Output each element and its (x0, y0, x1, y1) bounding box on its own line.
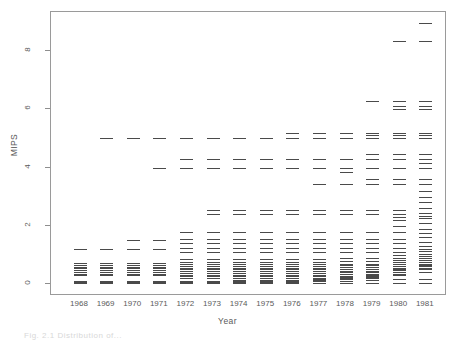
data-point-dash (393, 274, 406, 275)
data-point-dash (313, 283, 326, 284)
data-point-dash (419, 260, 432, 261)
data-point-dash (100, 249, 113, 250)
data-point-dash (207, 266, 220, 267)
data-point-dash (100, 268, 113, 269)
data-point-dash (313, 266, 326, 267)
data-point-dash (393, 159, 406, 160)
y-tick-label: 8 (23, 40, 32, 60)
data-point-dash (366, 243, 379, 244)
data-point-dash (419, 179, 432, 180)
data-point-dash (180, 266, 193, 267)
data-point-dash (100, 281, 113, 282)
data-point-dash (313, 184, 326, 185)
data-point-dash (393, 243, 406, 244)
data-point-dash (313, 214, 326, 215)
data-point-dash (393, 184, 406, 185)
data-point-dash (340, 138, 353, 139)
data-point-dash (127, 267, 140, 268)
data-point-dash (180, 252, 193, 253)
data-point-dash (260, 264, 273, 265)
data-point-dash (419, 283, 432, 284)
data-point-dash (260, 273, 273, 274)
data-point-dash (286, 168, 299, 169)
data-point-dash (286, 133, 299, 134)
y-axis-label: MIPS (9, 115, 19, 175)
data-point-dash (180, 275, 193, 276)
data-point-dash (127, 249, 140, 250)
data-point-dash (153, 240, 166, 241)
data-point-dash (366, 154, 379, 155)
data-point-dash (366, 239, 379, 240)
data-point-dash (180, 273, 193, 274)
data-point-dash (260, 138, 273, 139)
data-point-dash (180, 264, 193, 265)
y-tick-label: 4 (23, 156, 32, 176)
data-point-dash (286, 269, 299, 270)
data-point-dash (393, 135, 406, 136)
data-point-dash (127, 272, 140, 273)
data-point-dash (233, 273, 246, 274)
data-point-dash (207, 214, 220, 215)
data-point-dash (286, 264, 299, 265)
data-point-dash (180, 168, 193, 169)
data-point-dash (393, 210, 406, 211)
data-point-dash (286, 268, 299, 269)
data-point-dash (233, 262, 246, 263)
data-point-dash (260, 159, 273, 160)
data-point-dash (419, 208, 432, 209)
data-point-dash (153, 265, 166, 266)
data-point-dash (207, 268, 220, 269)
data-point-dash (393, 262, 406, 263)
data-point-dash (207, 168, 220, 169)
data-point-dash (180, 269, 193, 270)
data-point-dash (286, 252, 299, 253)
data-point-dash (233, 210, 246, 211)
data-point-dash (313, 239, 326, 240)
data-point-dash (393, 270, 406, 271)
data-point-dash (207, 276, 220, 277)
data-point-dash (180, 262, 193, 263)
data-point-dash (393, 232, 406, 233)
data-point-dash (313, 232, 326, 233)
data-point-dash (233, 280, 246, 281)
data-point-dash (180, 278, 193, 279)
data-point-dash (419, 256, 432, 257)
data-point-dash (180, 268, 193, 269)
data-point-dash (207, 281, 220, 282)
data-point-dash (74, 263, 87, 264)
data-point-dash (393, 138, 406, 139)
data-point-dash (393, 260, 406, 261)
data-point-dash (180, 232, 193, 233)
data-point-dash (340, 252, 353, 253)
data-point-dash (127, 274, 140, 275)
data-point-dash (207, 278, 220, 279)
data-point-dash (260, 243, 273, 244)
data-point-dash (313, 264, 326, 265)
data-point-dash (393, 101, 406, 102)
data-point-dash (419, 229, 432, 230)
data-point-dash (340, 269, 353, 270)
data-point-dash (340, 264, 353, 265)
data-point-dash (419, 265, 432, 266)
data-point-dash (340, 283, 353, 284)
figure-caption: Fig. 2.1 Distribution of... (24, 331, 122, 340)
plot-area (50, 11, 446, 295)
data-point-dash (100, 267, 113, 268)
data-point-dash (366, 214, 379, 215)
data-point-dash (366, 274, 379, 275)
data-point-dash (340, 267, 353, 268)
data-point-dash (233, 214, 246, 215)
data-point-dash (313, 133, 326, 134)
data-point-dash (393, 272, 406, 273)
data-point-dash (419, 184, 432, 185)
data-point-dash (100, 274, 113, 275)
data-point-dash (366, 277, 379, 278)
data-point-dash (419, 264, 432, 265)
data-point-dash (313, 262, 326, 263)
data-point-dash (340, 248, 353, 249)
data-point-dash (286, 278, 299, 279)
data-point-dash (260, 232, 273, 233)
data-point-dash (366, 283, 379, 284)
data-point-dash (286, 280, 299, 281)
data-point-dash (207, 275, 220, 276)
